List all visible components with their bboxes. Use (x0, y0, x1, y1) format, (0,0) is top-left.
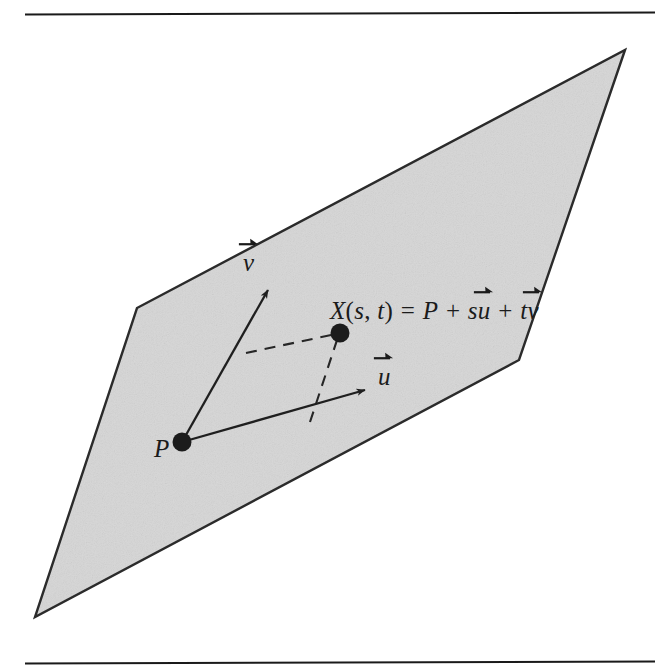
equation-open-paren: ( (346, 297, 355, 324)
shaded-plane (35, 50, 625, 617)
figure-page: P v u X(s, t) = P + su (0, 0, 655, 670)
origin-point-p-dot (173, 433, 192, 452)
equation-vector-v-glyph: v (527, 297, 538, 324)
vector-u-glyph: u (378, 363, 391, 390)
plane-fill (35, 50, 625, 617)
figure-diagram (0, 0, 655, 670)
equation-vector-v: v (527, 298, 538, 323)
equation-close-paren: ) (385, 297, 394, 324)
vector-v-glyph: v (243, 249, 254, 276)
equation-vector-u: u (478, 298, 491, 323)
equation-term-point-p: P (423, 297, 439, 324)
equation-plus-1: + (438, 297, 468, 324)
equation-coef-t: t (520, 297, 527, 324)
vector-v-accented-glyph: v (243, 250, 254, 275)
target-point-x-dot (331, 324, 350, 343)
equation-comma: , (364, 297, 377, 324)
top-rule (25, 13, 655, 15)
equation-coef-s: s (468, 297, 478, 324)
equation-param-t: t (377, 297, 384, 324)
label-vector-u: u (378, 364, 391, 389)
label-parametric-equation: X(s, t) = P + su + tv (330, 298, 539, 323)
equation-param-s: s (354, 297, 364, 324)
equation-equals-sign: = (393, 297, 423, 324)
vector-u-accented-glyph: u (378, 364, 391, 389)
equation-vector-u-glyph: u (478, 297, 491, 324)
label-point-p: P (154, 436, 169, 461)
equation-plus-2: + (491, 297, 521, 324)
bottom-rule (25, 662, 655, 664)
label-vector-v: v (243, 250, 254, 275)
equation-function-name: X (330, 297, 346, 324)
